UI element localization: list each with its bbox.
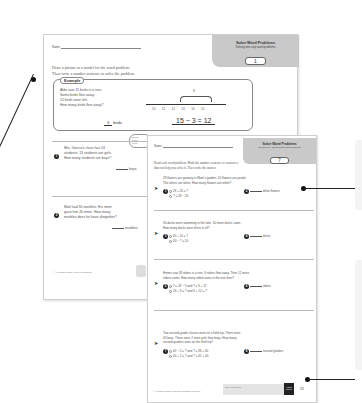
arrow-icon: ➤ [154, 230, 158, 236]
side-card-top [355, 140, 362, 210]
callout-dot-left [31, 77, 36, 82]
core-skills-badge: CORE SKILLS [284, 383, 294, 395]
choice-radio[interactable] [169, 355, 172, 358]
choice-radio[interactable] [169, 290, 172, 293]
example-answer: 3 birds [104, 120, 122, 125]
choice-radio[interactable] [169, 235, 172, 238]
choice-radio[interactable] [169, 285, 172, 288]
page-footer: © Houghton Mifflin Harcourt Publishing [54, 271, 92, 273]
problem-block-2: ➤ 30 ducks were swimming in the lake. 10… [154, 221, 314, 239]
instructions: Read each word problem. Mark the number … [154, 161, 238, 171]
answer-blank-2[interactable]: marbles [112, 226, 137, 231]
name-field: Name [52, 45, 141, 49]
example-box: Example Aldo saw 15 birds in a tree. Som… [53, 79, 253, 131]
callout-line-top [304, 188, 355, 189]
side-card-bottom [355, 260, 362, 370]
problem-block-1: ➤ 28 flowers are growing in Mom's garden… [154, 176, 314, 194]
answer-blank[interactable]: 2 white flowers [244, 189, 280, 194]
lesson-subtitle: Solving one- and two-step word problems [243, 146, 316, 148]
answer-blank[interactable]: 8 second graders [244, 349, 283, 354]
divider [52, 141, 147, 142]
problem-number-2: 2 [54, 213, 59, 218]
choice-radio[interactable] [169, 350, 172, 353]
answer-blank[interactable]: 6 robins [244, 284, 271, 289]
page-footer: © Houghton Mifflin Harcourt Publishing C… [153, 390, 201, 392]
callout-line-left [0, 74, 34, 147]
name-field: Name [154, 144, 233, 148]
lesson-subtitle: Solving one-step word problems [212, 45, 299, 49]
worksheet-page-2: Name Solve Word Problems Solving one- an… [147, 135, 317, 403]
problem-number-1: 1 [54, 154, 59, 159]
divider [154, 210, 314, 211]
jump-arc [180, 96, 212, 102]
jump-label: 3 [193, 89, 195, 93]
number-sentence: 15 − 3 = 12 [172, 117, 215, 125]
divider [154, 259, 314, 260]
lesson-title-tab: Solve Word Problems Solving one-step wor… [212, 35, 299, 67]
arrow-icon: ➤ [154, 280, 158, 286]
footer-tab [136, 265, 146, 277]
choice-radio[interactable] [169, 240, 172, 243]
instructions: Draw a picture or a model for the word p… [52, 65, 135, 77]
choice-radio[interactable] [169, 195, 172, 198]
example-text: Aldo saw 15 birds in a tree. Some birds … [60, 88, 103, 108]
page-number: 25 [300, 387, 304, 391]
lesson-number: 1 [245, 57, 266, 65]
lesson-number: 7 [270, 157, 289, 164]
answer-blank-1[interactable]: boys [116, 167, 136, 172]
callout-line-bottom [308, 379, 355, 380]
problem-block-3: ➤ Emma saw 18 robins in a tree. 9 robins… [154, 271, 314, 289]
divider [52, 196, 147, 197]
lesson-title-tab: Solve Word Problems Solving one- and two… [243, 138, 316, 164]
footer-note-bar: Take home activity [223, 384, 293, 395]
problem-2: 2 Matt had 30 marbles. His mom gave him … [54, 206, 59, 224]
divider [154, 310, 314, 311]
answer-blank[interactable]: 4 ducks [244, 234, 271, 239]
choice-radio[interactable] [169, 190, 172, 193]
problem-1: 1 Mrs. Garcia's class has 24 students. 1… [54, 147, 59, 165]
problem-block-4: ➤ Two second-grade classes went on a fie… [154, 331, 314, 349]
example-label: Example [60, 77, 84, 84]
arrow-icon: ➤ [154, 185, 158, 191]
arrow-icon: ➤ [154, 340, 158, 346]
